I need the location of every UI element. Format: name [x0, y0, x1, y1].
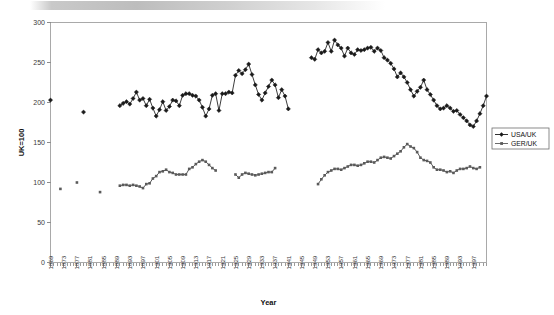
data-point	[475, 168, 478, 171]
y-tick-label: 50	[37, 219, 45, 226]
x-tick-label: 1957	[337, 255, 344, 269]
data-point	[432, 98, 436, 102]
data-point	[244, 172, 247, 175]
data-point	[237, 176, 240, 179]
x-tick-label: 1905	[166, 255, 173, 269]
data-point	[234, 173, 237, 176]
series-path	[120, 64, 288, 116]
data-point	[478, 112, 482, 116]
data-point	[261, 172, 264, 175]
data-point	[442, 169, 445, 172]
data-point	[188, 168, 191, 171]
data-point	[459, 168, 462, 171]
data-point	[280, 88, 284, 92]
x-tick-label: 1913	[192, 255, 199, 269]
data-point	[320, 178, 323, 181]
data-point	[175, 173, 178, 176]
data-point	[326, 40, 330, 44]
data-point	[152, 177, 155, 180]
data-point	[263, 91, 267, 95]
data-point	[350, 164, 353, 167]
data-point	[455, 169, 458, 172]
data-point	[178, 173, 181, 176]
data-point	[241, 173, 244, 176]
x-tick-label: 1869	[47, 255, 54, 269]
line-chart: 0501001502002503001869187318771881188518…	[0, 0, 554, 315]
data-point	[481, 104, 485, 108]
data-point	[191, 166, 194, 169]
x-tick-label: 1877	[73, 255, 80, 269]
y-tick-label: 150	[33, 139, 45, 146]
x-tick-label: 1989	[443, 255, 450, 269]
data-point	[337, 168, 340, 171]
data-point	[148, 182, 151, 185]
y-tick-label: 250	[33, 59, 45, 66]
data-point	[147, 97, 151, 101]
data-point	[359, 48, 363, 52]
series-ger-uk	[59, 143, 481, 194]
x-tick-label: 1937	[271, 255, 278, 269]
data-point	[405, 80, 409, 84]
data-point	[360, 164, 363, 167]
data-point	[436, 168, 439, 171]
chart-canvas: 0501001502002503001869187318771881188518…	[0, 0, 554, 315]
data-point	[432, 166, 435, 169]
data-point	[204, 160, 207, 163]
data-point	[392, 67, 396, 71]
data-point	[462, 168, 465, 171]
data-point	[134, 90, 138, 94]
legend-swatch-marker	[500, 142, 503, 145]
data-point	[128, 184, 131, 187]
data-point	[201, 159, 204, 162]
data-point	[125, 184, 128, 187]
data-point	[366, 160, 369, 163]
data-point	[76, 181, 79, 184]
data-point	[200, 105, 204, 109]
data-point	[370, 160, 373, 163]
x-tick-label: 1949	[311, 255, 318, 269]
data-point	[399, 150, 402, 153]
data-point	[343, 167, 346, 170]
data-point	[256, 92, 260, 96]
data-point	[144, 104, 148, 108]
data-point	[317, 183, 320, 186]
data-point	[204, 114, 208, 118]
y-tick-label: 100	[33, 179, 45, 186]
x-tick-label: 1977	[404, 255, 411, 269]
legend-label: GER/UK	[511, 140, 538, 147]
data-point	[376, 159, 379, 162]
data-point	[185, 173, 188, 176]
y-tick-label: 0	[41, 259, 45, 266]
x-tick-label: 1945	[298, 255, 305, 269]
data-point	[250, 72, 254, 76]
data-point	[271, 171, 274, 174]
data-point	[171, 172, 174, 175]
data-point	[419, 156, 422, 159]
y-axis-title: UK=100	[17, 129, 26, 157]
data-point	[380, 156, 383, 159]
data-point	[168, 171, 171, 174]
x-tick-label: 1889	[113, 255, 120, 269]
data-point	[422, 78, 426, 82]
data-point	[429, 161, 432, 164]
x-tick-label: 1941	[285, 255, 292, 269]
data-point	[132, 184, 135, 187]
data-point	[403, 146, 406, 149]
data-point	[373, 161, 376, 164]
data-point	[465, 167, 468, 170]
data-point	[253, 83, 257, 87]
y-tick-label: 200	[33, 99, 45, 106]
x-tick-label: 1965	[364, 255, 371, 269]
data-point	[342, 54, 346, 58]
x-tick-label: 1881	[86, 255, 93, 269]
x-tick-label: 1925	[232, 255, 239, 269]
data-point	[333, 168, 336, 171]
x-tick-label: 1985	[430, 255, 437, 269]
x-tick-label: 1893	[126, 255, 133, 269]
data-point	[138, 185, 141, 188]
data-point	[356, 164, 359, 167]
data-point	[155, 175, 158, 178]
data-point	[48, 98, 52, 102]
data-point	[264, 172, 267, 175]
legend-label: USA/UK	[511, 131, 537, 138]
